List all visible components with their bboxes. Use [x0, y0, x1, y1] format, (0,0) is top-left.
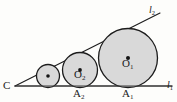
- label-foot-A2-subscript: 2: [81, 93, 85, 101]
- label-line-l1: l1: [167, 80, 173, 90]
- label-line-l2: l2: [149, 5, 155, 15]
- label-foot-A1: A1: [122, 88, 133, 99]
- label-foot-A2-base: A: [73, 87, 81, 99]
- label-vertex-C: C: [3, 80, 10, 91]
- label-center-O2-base: O: [74, 68, 82, 80]
- label-foot-A1-subscript: 1: [130, 93, 134, 101]
- label-center-O2: O2: [74, 69, 85, 80]
- center-dot-small: [46, 74, 50, 78]
- geometry-figure: C O1 O2 A1 A2 l1 l2: [0, 0, 177, 102]
- label-foot-A2: A2: [73, 88, 84, 99]
- label-line-l1-subscript: 1: [170, 84, 173, 91]
- label-foot-A1-base: A: [122, 87, 130, 99]
- label-center-O2-subscript: 2: [82, 74, 86, 82]
- label-center-O1-subscript: 1: [130, 63, 134, 71]
- geometry-canvas: [0, 0, 177, 102]
- label-center-O1: O1: [122, 58, 133, 69]
- label-line-l2-subscript: 2: [152, 9, 155, 16]
- label-center-O1-base: O: [122, 57, 130, 69]
